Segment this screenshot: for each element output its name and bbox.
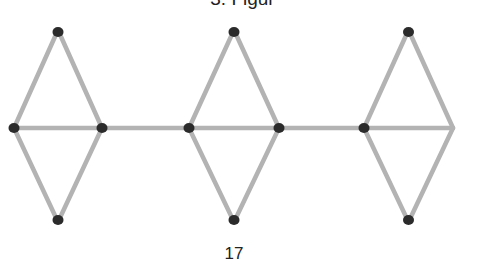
figure-caption: 17 (0, 244, 468, 264)
matchstick-head (403, 215, 414, 225)
matchstick (409, 128, 454, 222)
matchstick-head (53, 27, 64, 37)
matchstick (14, 128, 58, 222)
matchstick (234, 128, 279, 222)
matchstick-head (9, 123, 20, 133)
matchstick-head (403, 27, 414, 37)
matchstick (58, 128, 102, 222)
matchstick-head (53, 215, 64, 225)
matchstick-figure (0, 0, 485, 268)
matchstick (58, 30, 102, 128)
matchstick (364, 128, 409, 222)
matchstick (189, 128, 234, 222)
matchstick-head (229, 27, 240, 37)
matchstick-head (97, 123, 108, 133)
matchstick-head (184, 123, 195, 133)
matchstick (364, 30, 409, 128)
matchstick (189, 30, 234, 128)
matchstick-head (229, 215, 240, 225)
matchstick (409, 30, 454, 128)
matchstick-head (359, 123, 370, 133)
matchstick (14, 30, 58, 128)
matchstick (234, 30, 279, 128)
matchstick-head (274, 123, 285, 133)
